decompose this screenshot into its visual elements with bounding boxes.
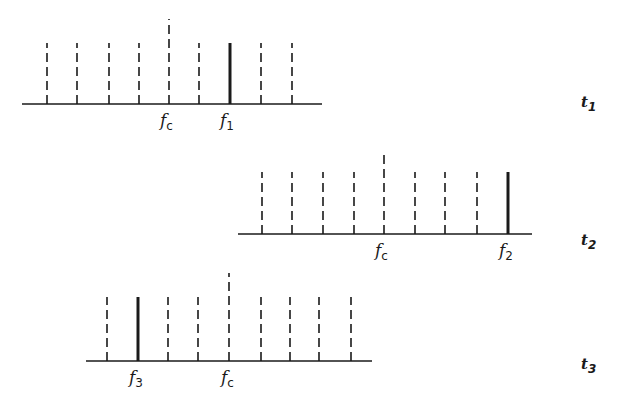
time-label-t2: t2 xyxy=(581,231,596,252)
frequency-label-carrier: fc xyxy=(373,240,388,263)
frequency-label-active: f2 xyxy=(497,240,513,263)
frequency-label-carrier: fc xyxy=(158,110,173,133)
spectrum-panel-t1: fcf1t1 xyxy=(22,19,596,133)
frequency-hopping-diagram: fcf1t1fcf2t2f3fct3 xyxy=(0,0,617,398)
frequency-label-active: f1 xyxy=(218,110,234,133)
spectrum-panel-t2: fcf2t2 xyxy=(238,150,596,263)
time-label-t3: t3 xyxy=(581,355,596,376)
frequency-label-active: f3 xyxy=(127,367,143,390)
frequency-label-carrier: fc xyxy=(219,367,234,390)
spectrum-panel-t3: f3fct3 xyxy=(86,273,596,390)
time-label-t1: t1 xyxy=(581,93,596,114)
